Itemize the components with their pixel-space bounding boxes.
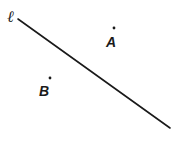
point-a-dot: [113, 27, 116, 30]
line-label: ℓ: [7, 8, 14, 25]
line-l: [18, 19, 170, 128]
point-b-dot: [49, 77, 52, 80]
point-a-label: A: [105, 34, 116, 50]
diagram-canvas: ℓ A B: [0, 0, 184, 144]
point-b-label: B: [39, 83, 49, 99]
